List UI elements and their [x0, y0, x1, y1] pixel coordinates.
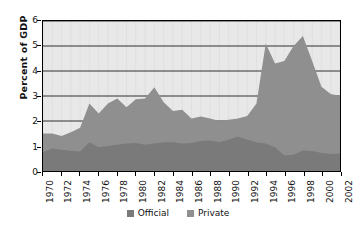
x-axis-tick-label: 1984 [176, 180, 185, 203]
x-axis-tick-mark [285, 172, 286, 176]
x-axis-tick-mark [210, 172, 211, 176]
legend-label: Official [138, 209, 169, 218]
y-axis-tick-label: 5 [20, 41, 38, 50]
y-axis-tick-mark [37, 96, 41, 97]
x-axis-tick-label: 2002 [345, 180, 354, 203]
x-axis-tick-mark [135, 172, 136, 176]
x-axis-tick-label: 1998 [307, 180, 316, 203]
y-axis-tick-label: 3 [20, 92, 38, 101]
y-axis-tick-labels: 0123456 [20, 20, 38, 172]
y-axis-tick-mark [37, 172, 41, 173]
y-axis-tick-label: 0 [20, 168, 38, 177]
y-axis-tick-mark [37, 20, 41, 21]
x-axis-tick-mark [229, 172, 230, 176]
y-axis-tick-label: 1 [20, 142, 38, 151]
legend-label: Private [198, 209, 229, 218]
legend-swatch-icon [127, 210, 134, 217]
x-axis-tick-label: 1992 [251, 180, 260, 203]
y-axis-tick-mark [37, 45, 41, 46]
legend-item[interactable]: Private [187, 209, 229, 218]
x-axis-tick-mark [192, 172, 193, 176]
x-axis-tick-label: 1970 [46, 180, 55, 203]
legend-item[interactable]: Official [127, 209, 169, 218]
x-axis-tick-label: 1972 [64, 180, 73, 203]
x-axis-tick-label: 1980 [139, 180, 148, 203]
x-axis-tick-mark [341, 172, 342, 176]
x-axis-tick-mark [322, 172, 323, 176]
plot-area [42, 20, 341, 172]
x-axis-tick-mark [42, 172, 43, 176]
x-axis-tick-mark [79, 172, 80, 176]
x-axis-tick-mark [154, 172, 155, 176]
chart-container: Percent of GDP 0123456 19701972197419761… [0, 0, 356, 236]
x-axis-tick-label: 1990 [232, 180, 241, 203]
y-axis-tick-label: 4 [20, 66, 38, 75]
x-axis-tick-label: 2000 [326, 180, 335, 203]
y-axis-tick-mark [37, 121, 41, 122]
chart-legend: OfficialPrivate [0, 209, 356, 218]
y-axis-tick-label: 6 [20, 16, 38, 25]
x-axis-tick-mark [98, 172, 99, 176]
x-axis-tick-mark [266, 172, 267, 176]
x-axis-tick-mark [173, 172, 174, 176]
x-axis-tick-label: 1982 [158, 180, 167, 203]
legend-swatch-icon [187, 210, 194, 217]
x-axis-tick-mark [61, 172, 62, 176]
x-axis-tick-mark [304, 172, 305, 176]
x-axis-tick-label: 1994 [270, 180, 279, 203]
x-axis-tick-label: 1988 [214, 180, 223, 203]
x-axis-tick-mark [117, 172, 118, 176]
x-axis-tick-label: 1974 [83, 180, 92, 203]
x-axis-tick-mark [248, 172, 249, 176]
y-axis-tick-mark [37, 71, 41, 72]
x-axis-tick-label: 1996 [288, 180, 297, 203]
stacked-area-plot [43, 21, 340, 171]
x-axis-tick-label: 1976 [102, 180, 111, 203]
y-axis-tick-mark [37, 147, 41, 148]
x-axis-tick-labels: 1970197219741976197819801982198419861988… [42, 177, 341, 207]
y-axis-tick-label: 2 [20, 117, 38, 126]
x-axis-tick-label: 1986 [195, 180, 204, 203]
x-axis-tick-label: 1978 [120, 180, 129, 203]
